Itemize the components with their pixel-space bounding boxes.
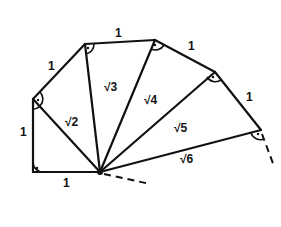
label-sqrt6: √6 [180,152,194,166]
edge-unit-4 [155,40,215,72]
edge-unit-3 [85,40,155,44]
continuation-dash-origin [104,174,150,184]
label-unit-2: 1 [48,59,55,73]
edge-unit-5 [215,72,261,130]
label-unit-left: 1 [20,125,27,139]
label-sqrt4: √4 [144,93,158,107]
label-unit-base: 1 [63,176,70,190]
spiral-diagram: 1 1 1 1 1 1 √2 √3 √4 √5 √6 [0,0,281,227]
hypotenuse-sqrt3 [85,44,100,172]
label-unit-3: 1 [115,26,122,40]
label-sqrt2: √2 [65,115,79,129]
right-angle-marker-1 [33,162,43,172]
right-angle-marker-3 [86,44,94,54]
hypotenuse-sqrt2 [33,99,100,172]
edge-unit-2 [33,44,85,99]
label-sqrt3: √3 [104,80,118,94]
origin-point [97,169,103,175]
label-unit-4: 1 [188,39,195,53]
label-unit-5: 1 [246,90,253,104]
label-sqrt5: √5 [174,121,188,135]
